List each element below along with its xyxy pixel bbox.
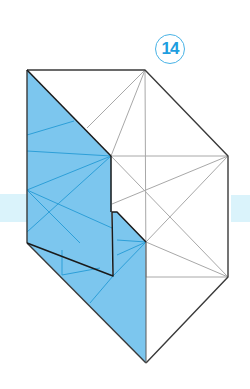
step-number-badge: 14 [155,34,185,64]
origami-diagram [0,0,250,389]
